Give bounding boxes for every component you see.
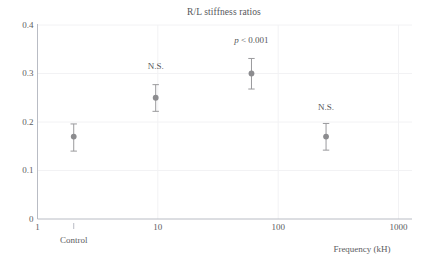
y-tick-label: 0.4 xyxy=(22,21,33,30)
x-tick-label: 10 xyxy=(138,223,178,232)
significance-annotation: p < 0.001 xyxy=(211,36,291,45)
p-value-text: < 0.001 xyxy=(239,35,269,45)
data-point-marker xyxy=(71,134,77,140)
data-point-group xyxy=(71,124,77,151)
data-point-marker xyxy=(249,71,255,77)
data-point-marker xyxy=(323,134,329,140)
chart-figure: R/L stiffness ratios 00.10.20.30.4 11010… xyxy=(0,0,422,267)
y-tick-label: 0.1 xyxy=(22,166,33,175)
data-point-group xyxy=(248,58,254,89)
gridlines xyxy=(38,25,413,219)
chart-title: R/L stiffness ratios xyxy=(13,8,422,18)
significance-annotation: N.S. xyxy=(286,103,366,112)
x-tick-label: 1000 xyxy=(379,223,419,232)
significance-annotation: N.S. xyxy=(116,62,196,71)
x-axis-title: Frequency (kH) xyxy=(312,245,412,254)
data-point-marker xyxy=(153,95,159,101)
control-tick-label: Control xyxy=(34,236,114,245)
y-tick-label: 0.2 xyxy=(22,118,33,127)
y-tick-label: 0.3 xyxy=(22,69,33,78)
x-tick-label: 1 xyxy=(18,223,58,232)
x-tick-label: 100 xyxy=(258,223,298,232)
data-point-group xyxy=(323,123,329,150)
